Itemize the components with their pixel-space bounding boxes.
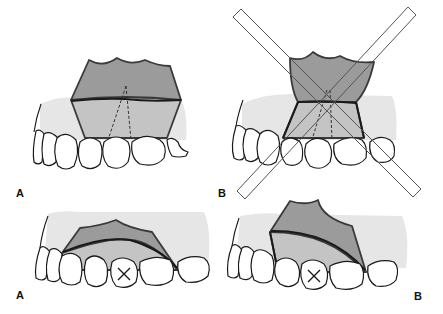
graft-flap-top <box>290 52 374 102</box>
panel-top-right <box>232 7 421 199</box>
tooth <box>281 138 303 165</box>
tooth <box>140 257 174 285</box>
tooth <box>257 130 280 165</box>
tooth <box>59 253 82 285</box>
tooth <box>330 261 364 289</box>
palate-outline <box>232 218 239 246</box>
dental-graft-figure <box>0 0 443 314</box>
panel-bottom-right <box>228 200 408 289</box>
graft-flap-base <box>71 97 181 138</box>
tooth <box>305 138 332 168</box>
panel-label-top-right: B <box>218 188 226 199</box>
panel-label-bottom-left: A <box>16 290 24 301</box>
tooth <box>132 136 166 165</box>
panel-bottom-left <box>36 211 210 287</box>
tooth <box>334 138 367 165</box>
extracted-tooth <box>111 258 138 287</box>
extracted-tooth <box>301 260 328 289</box>
tooth <box>275 258 300 287</box>
tooth <box>55 134 78 169</box>
tooth <box>251 250 274 283</box>
tooth <box>78 138 102 169</box>
tooth <box>368 261 398 287</box>
panel-label-bottom-right: B <box>414 291 422 302</box>
graft-flap-top <box>71 58 181 100</box>
panel-label-top-left: A <box>16 188 24 199</box>
tooth <box>167 138 188 157</box>
tooth <box>84 256 107 287</box>
tooth <box>103 137 130 168</box>
palate-outline <box>236 100 243 126</box>
tooth <box>178 257 210 283</box>
panel-top-left <box>33 58 188 169</box>
palate-outline <box>34 104 41 132</box>
